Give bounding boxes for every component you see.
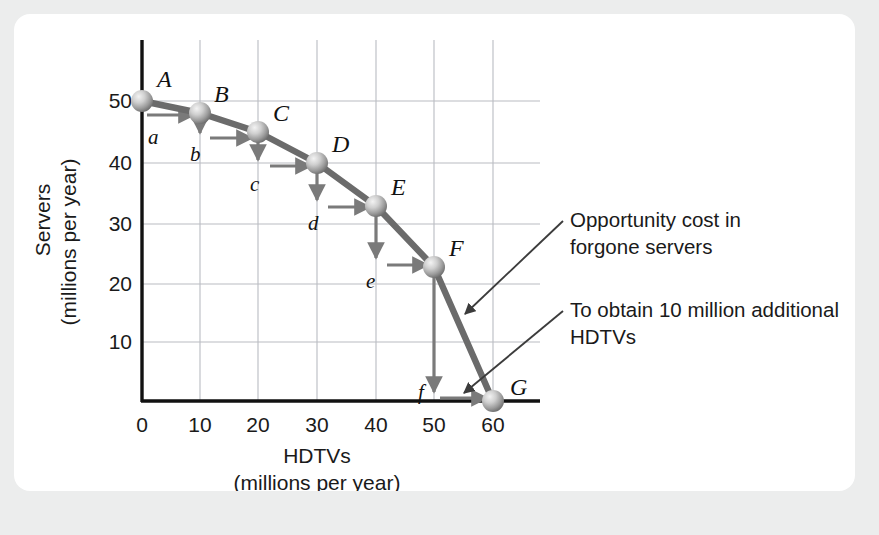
annotation-opportunity-cost-line1: Opportunity cost in [570, 208, 741, 231]
point-label-B: B [214, 81, 229, 107]
point-label-A: A [155, 66, 172, 92]
leader-line-opportunity-cost [465, 221, 563, 314]
data-point-A[interactable] [131, 90, 153, 112]
y-tick-label-10: 10 [109, 330, 132, 353]
y-axis-ticks: 50 40 30 20 10 [109, 89, 132, 353]
annotation-additional-hdtvs-line1: To obtain 10 million additional [570, 298, 839, 321]
point-label-D: D [331, 131, 349, 157]
data-point-E[interactable] [365, 195, 387, 217]
point-label-C: C [273, 100, 290, 126]
y-tick-label-20: 20 [109, 272, 132, 295]
x-tick-label-0: 0 [136, 413, 148, 436]
x-tick-label-40: 40 [364, 413, 387, 436]
annotation-opportunity-cost: Opportunity cost in forgone servers [570, 208, 741, 258]
ppf-chart: 50 40 30 20 10 0 10 20 30 40 50 60 HDTVs… [14, 14, 855, 491]
y-axis-subtitle: (millions per year) [57, 159, 80, 326]
annotation-additional-hdtvs: To obtain 10 million additional HDTVs [570, 298, 839, 348]
point-label-E: E [390, 174, 406, 200]
y-tick-label-30: 30 [109, 212, 132, 235]
step-label-a: a [148, 125, 159, 149]
step-label-c: c [250, 172, 260, 196]
x-tick-label-10: 10 [188, 413, 211, 436]
x-tick-label-50: 50 [422, 413, 445, 436]
data-point-B[interactable] [189, 102, 211, 124]
x-axis-ticks: 0 10 20 30 40 50 60 [136, 413, 505, 436]
step-label-b: b [190, 142, 201, 166]
step-label-d: d [308, 211, 319, 235]
y-tick-label-40: 40 [109, 151, 132, 174]
x-tick-label-20: 20 [246, 413, 269, 436]
point-label-G: G [510, 374, 527, 400]
data-point-G[interactable] [482, 390, 504, 412]
x-tick-label-60: 60 [481, 413, 504, 436]
data-point-F[interactable] [423, 256, 445, 278]
data-point-D[interactable] [306, 152, 328, 174]
data-point-C[interactable] [247, 121, 269, 143]
figure-panel: 50 40 30 20 10 0 10 20 30 40 50 60 HDTVs… [14, 14, 855, 491]
x-tick-label-30: 30 [305, 413, 328, 436]
step-label-e: e [366, 269, 375, 293]
figure-root: 50 40 30 20 10 0 10 20 30 40 50 60 HDTVs… [0, 0, 879, 535]
gridlines-vertical [200, 40, 493, 401]
y-tick-label-50: 50 [109, 89, 132, 112]
point-label-F: F [448, 235, 464, 261]
x-axis-subtitle: (millions per year) [234, 471, 401, 491]
annotation-opportunity-cost-line2: forgone servers [570, 235, 712, 258]
y-axis-title: Servers [31, 184, 54, 256]
x-axis-title: HDTVs [283, 444, 351, 467]
annotation-additional-hdtvs-line2: HDTVs [570, 325, 636, 348]
